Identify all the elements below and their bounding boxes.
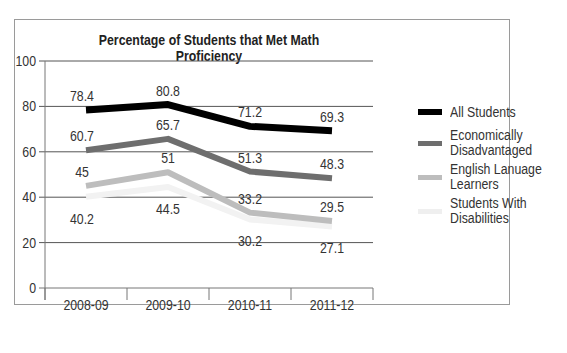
legend-label-english-lanuage: English Lanuage: [450, 161, 542, 177]
legend-label-disadvantaged: Disadvantaged: [450, 142, 532, 158]
data-label: 48.3: [320, 157, 344, 173]
data-label: 80.8: [156, 83, 180, 99]
legend-label-economically: Economically: [450, 127, 523, 143]
legend-label-all-students: All Students: [450, 104, 516, 120]
data-label: 44.5: [156, 201, 180, 217]
data-label: 71.2: [238, 105, 262, 121]
legend-swatch-students-with-disabilities: [418, 209, 442, 214]
data-label: 60.7: [70, 128, 94, 144]
data-label: 27.1: [320, 241, 344, 257]
y-tick-label-100: 100: [15, 53, 36, 69]
y-tick-label-60: 60: [22, 144, 36, 160]
x-tick-label-2008-09: 2008-09: [63, 297, 108, 313]
series-line-economically-disadvantaged: [86, 139, 332, 178]
series-line-all-students: [86, 105, 332, 131]
legend-swatch-economically-disadvantaged: [418, 141, 442, 146]
legend-label-disabilities: Disabilities: [450, 210, 509, 226]
y-tick-label-40: 40: [22, 189, 36, 205]
data-label: 45: [75, 164, 89, 180]
legend-item-economically-disadvantaged: EconomicallyDisadvantaged: [418, 126, 558, 160]
legend-item-students-with-disabilities: Students WithDisabilities: [418, 194, 558, 228]
series-line-english-lanuage-learners: [86, 172, 332, 221]
legend-swatch-all-students: [418, 109, 442, 115]
data-label: 29.5: [320, 199, 344, 215]
x-tick-label-2010-11: 2010-11: [228, 297, 272, 313]
legend-item-english-language-learners: English LanuageLearners: [418, 160, 558, 194]
legend-label-students-with: Students With: [450, 195, 527, 211]
data-label: 51: [161, 150, 175, 166]
data-label: 65.7: [156, 117, 180, 133]
data-label: 33.2: [238, 191, 262, 207]
legend-item-all-students: All Students: [418, 102, 558, 122]
y-tick-label-0: 0: [29, 280, 36, 296]
data-label: 40.2: [70, 211, 94, 227]
legend-label-learners: Learners: [450, 176, 499, 192]
data-label: 78.4: [70, 88, 94, 104]
data-label: 69.3: [320, 109, 344, 125]
y-tick-label-80: 80: [22, 99, 36, 115]
legend-swatch-english-language-learners: [418, 175, 442, 180]
x-tick-label-2011-12: 2011-12: [310, 297, 354, 313]
data-label: 51.3: [238, 150, 262, 166]
chart-legend: All Students EconomicallyDisadvantaged E…: [418, 102, 558, 228]
x-tick-label-2009-10: 2009-10: [145, 297, 190, 313]
data-label: 30.2: [238, 234, 262, 250]
y-tick-label-20: 20: [22, 235, 36, 251]
